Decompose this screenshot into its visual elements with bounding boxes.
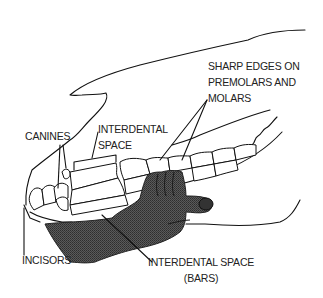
pointer-sharp-edges-2 <box>182 100 207 160</box>
incisors-teeth <box>29 183 68 210</box>
label-sharp-edges-line-2: PREMOLARS AND <box>208 74 300 90</box>
label-sharp-edges-line-1: SHARP EDGES ON <box>208 58 300 74</box>
label-bars-line-2: (BARS) <box>148 270 254 286</box>
label-interdental-space-line-1: INTERDENTAL <box>98 121 168 137</box>
label-interdental-space-bars: INTERDENTAL SPACE (BARS) <box>148 254 254 286</box>
pointer-canines-1 <box>58 145 60 188</box>
canine-tooth <box>62 169 70 179</box>
label-canines: CANINES <box>25 128 70 144</box>
label-sharp-edges-line-3: MOLARS <box>208 90 300 106</box>
label-interdental-space: INTERDENTAL SPACE <box>98 121 168 153</box>
thumbnail <box>199 198 213 210</box>
label-incisors: INCISORS <box>22 252 71 268</box>
pointer-canines-2 <box>63 145 66 168</box>
label-sharp-edges: SHARP EDGES ON PREMOLARS AND MOLARS <box>208 58 300 106</box>
label-interdental-space-line-2: SPACE <box>98 137 168 153</box>
label-bars-line-1: INTERDENTAL SPACE <box>148 254 254 270</box>
